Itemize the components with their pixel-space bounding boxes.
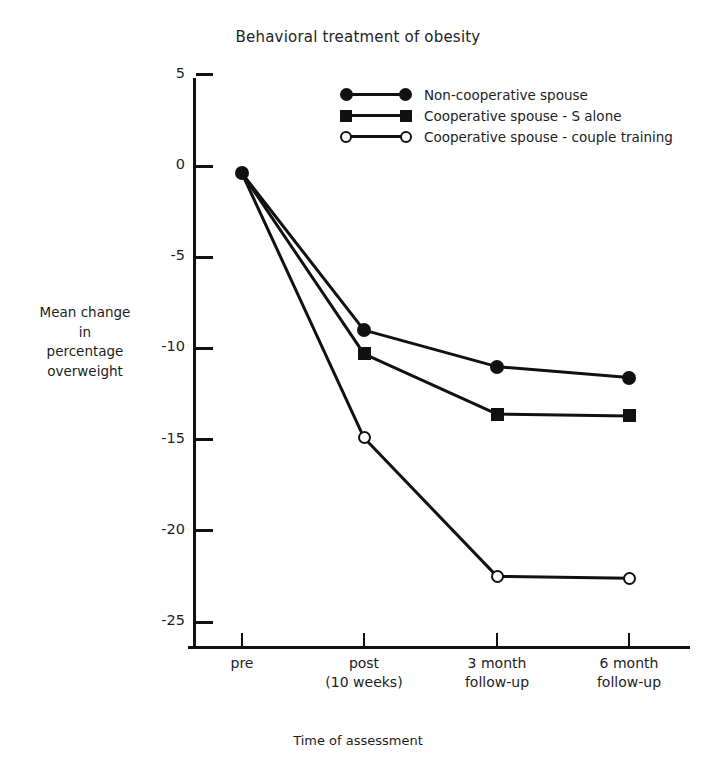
data-point-filled-square: [623, 409, 636, 422]
y-axis-tick-label: -20: [145, 521, 185, 537]
legend-label: Cooperative spouse - couple training: [424, 129, 673, 145]
series-line: [242, 173, 629, 377]
y-axis-tick-label: 0: [145, 156, 185, 172]
y-axis-tick-label: -15: [145, 430, 185, 446]
y-axis-tick-label: -5: [145, 247, 185, 263]
x-axis-tick: [496, 633, 499, 647]
chart-legend: Non-cooperative spouse Cooperative spous…: [340, 84, 680, 147]
series-line: [242, 173, 629, 416]
y-axis-tick: [196, 73, 213, 76]
series-line: [242, 173, 629, 578]
legend-item-non-cooperative-spouse: Non-cooperative spouse: [340, 84, 680, 105]
y-axis-tick: [196, 621, 213, 624]
x-axis-tick: [241, 633, 244, 647]
y-axis-tick: [196, 256, 213, 259]
legend-label: Cooperative spouse - S alone: [424, 108, 622, 124]
legend-key-filled-square-icon: [340, 107, 412, 125]
data-point-filled-square: [491, 408, 504, 421]
x-axis-tick: [363, 633, 366, 647]
y-axis-title-line: percentage: [10, 342, 160, 362]
y-axis-line: [193, 78, 196, 648]
data-point-filled-square: [358, 347, 371, 360]
legend-label: Non-cooperative spouse: [424, 87, 588, 103]
y-axis-title: Mean changeinpercentageoverweight: [10, 303, 160, 381]
data-point-open-circle: [358, 431, 371, 444]
data-point-filled-circle: [622, 371, 636, 385]
chart-title: Behavioral treatment of obesity: [0, 28, 716, 46]
legend-key-filled-circle-icon: [340, 86, 412, 104]
data-point-filled-circle: [235, 166, 249, 180]
x-axis-tick-label: 6 monthfollow-up: [549, 654, 709, 692]
chart-figure: Behavioral treatment of obesity Non-coop…: [0, 0, 716, 763]
data-point-open-circle: [491, 570, 504, 583]
data-point-open-circle: [623, 572, 636, 585]
y-axis-tick: [196, 438, 213, 441]
x-axis-tick-label-line: follow-up: [549, 673, 709, 692]
legend-key-open-circle-icon: [340, 128, 412, 146]
y-axis-tick: [196, 347, 213, 350]
data-point-filled-circle: [490, 360, 504, 374]
y-axis-title-line: Mean change: [10, 303, 160, 323]
x-axis-title: Time of assessment: [0, 733, 716, 748]
y-axis-title-line: overweight: [10, 362, 160, 382]
y-axis-title-line: in: [10, 323, 160, 343]
x-axis-tick: [628, 633, 631, 647]
data-point-filled-circle: [357, 323, 371, 337]
y-axis-tick-label: -25: [145, 612, 185, 628]
legend-item-cooperative-spouse-couple-training: Cooperative spouse - couple training: [340, 126, 680, 147]
y-axis-tick: [196, 529, 213, 532]
y-axis-tick-label: 5: [145, 65, 185, 81]
x-axis-line: [188, 646, 690, 649]
y-axis-tick: [196, 165, 213, 168]
x-axis-tick-label-line: 6 month: [549, 654, 709, 673]
legend-item-cooperative-spouse-s-alone: Cooperative spouse - S alone: [340, 105, 680, 126]
